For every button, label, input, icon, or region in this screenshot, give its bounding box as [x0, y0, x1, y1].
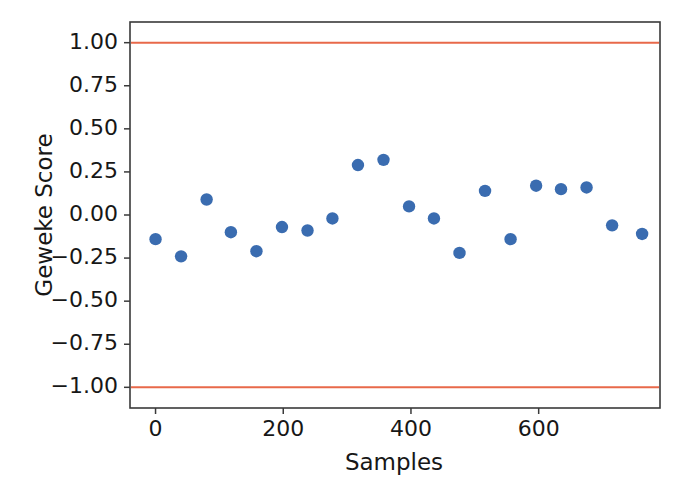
y-tick-label: −0.25 — [51, 244, 118, 269]
y-tick-label: 0.50 — [69, 115, 118, 140]
data-point-marker — [250, 245, 262, 257]
y-tick-label: 0.25 — [69, 158, 118, 183]
x-tick-label: 200 — [262, 416, 304, 441]
data-point-marker — [636, 228, 648, 240]
y-tick-label: −0.75 — [51, 330, 118, 355]
y-axis-title: Geweke Score — [31, 133, 57, 296]
data-point-marker — [326, 212, 338, 224]
geweke-scatter-chart: 1.000.750.500.250.00−0.25−0.50−0.75−1.00… — [0, 0, 688, 488]
y-tick-label: −0.50 — [51, 287, 118, 312]
x-tick-label: 400 — [390, 416, 432, 441]
data-point-marker — [149, 233, 161, 245]
data-point-marker — [200, 193, 212, 205]
data-point-marker — [530, 180, 542, 192]
x-tick-label: 0 — [149, 416, 163, 441]
data-point-marker — [301, 224, 313, 236]
data-point-marker — [453, 247, 465, 259]
y-tick-label: −1.00 — [51, 373, 118, 398]
data-point-marker — [555, 183, 567, 195]
chart-figure: 1.000.750.500.250.00−0.25−0.50−0.75−1.00… — [0, 0, 688, 488]
y-tick-label: 0.75 — [69, 72, 118, 97]
data-point-marker — [377, 154, 389, 166]
data-point-marker — [606, 219, 618, 231]
y-tick-label: 0.00 — [69, 201, 118, 226]
data-point-marker — [428, 212, 440, 224]
data-point-marker — [580, 181, 592, 193]
data-point-marker — [352, 159, 364, 171]
y-tick-label: 1.00 — [69, 29, 118, 54]
x-tick-label: 600 — [518, 416, 560, 441]
data-point-marker — [276, 221, 288, 233]
data-point-marker — [403, 200, 415, 212]
x-axis-title: Samples — [345, 449, 443, 475]
data-point-marker — [175, 250, 187, 262]
data-point-marker — [504, 233, 516, 245]
data-point-marker — [225, 226, 237, 238]
data-point-marker — [479, 185, 491, 197]
